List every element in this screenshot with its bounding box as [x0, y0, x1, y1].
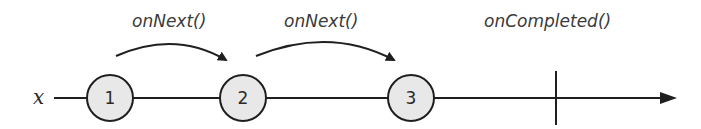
- timeline-arrow-icon: [660, 92, 677, 104]
- marble-diagram: x onNext() onNext() onCompleted() 1 2 3: [0, 0, 701, 129]
- onnext-arc-2-3: [256, 42, 394, 60]
- annotation-oncompleted: onCompleted(): [484, 11, 611, 31]
- marble-2-value: 2: [238, 88, 249, 108]
- observable-label: x: [33, 85, 44, 109]
- annotation-onnext-1: onNext(): [132, 11, 206, 31]
- annotation-onnext-2: onNext(): [284, 11, 358, 31]
- marble-3-value: 3: [406, 88, 417, 108]
- marble-3: 3: [388, 75, 434, 121]
- marble-2: 2: [220, 75, 266, 121]
- marble-1-value: 1: [105, 88, 116, 108]
- onnext-arc-1-2: [116, 44, 226, 60]
- marble-1: 1: [87, 75, 133, 121]
